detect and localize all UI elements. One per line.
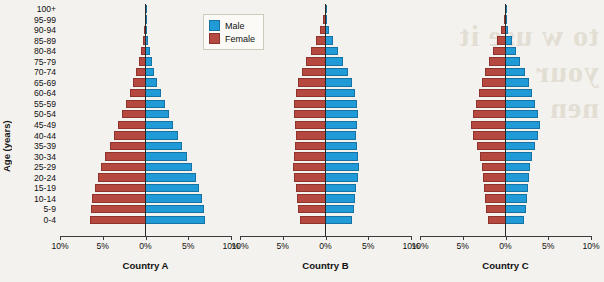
panel-title: Country A <box>60 260 231 271</box>
panel-country-c: 10%5%0%5%10%Country C <box>420 4 591 280</box>
age-group-label: 95-99 <box>16 15 58 26</box>
x-axis-tick-label: 0% <box>129 241 163 251</box>
bar-male <box>326 184 357 192</box>
age-group-label: 25-29 <box>16 162 58 173</box>
bar-male <box>506 57 521 65</box>
x-axis-tick-label: 10% <box>403 241 437 251</box>
age-group-label: 60-64 <box>16 88 58 99</box>
bar-female <box>484 184 505 192</box>
x-axis-tick-label: 0% <box>309 241 343 251</box>
y-axis-label: Age (years) <box>1 86 15 206</box>
age-group-label: 35-39 <box>16 141 58 152</box>
bar-female <box>480 152 506 160</box>
bar-female <box>298 78 325 86</box>
plot-area <box>420 4 591 236</box>
x-axis-tick <box>591 236 592 240</box>
bar-female <box>101 163 145 171</box>
x-axis-tick-label: 10% <box>574 241 604 251</box>
bar-female <box>479 89 506 97</box>
bar-female <box>296 184 326 192</box>
bar-male <box>146 89 161 97</box>
bar-female <box>118 121 145 129</box>
x-axis-tick <box>60 236 61 240</box>
bar-female <box>493 47 505 55</box>
bar-male <box>326 89 355 97</box>
bar-male <box>506 194 527 202</box>
bar-female <box>298 205 325 213</box>
bar-female <box>311 47 326 55</box>
bar-female <box>92 194 145 202</box>
panels-container: 10%5%0%5%10%Country A10%5%0%5%10%Country… <box>60 4 591 280</box>
bar-male <box>506 89 533 97</box>
bar-male <box>506 173 530 181</box>
bar-male <box>146 216 206 224</box>
bar-male <box>146 68 155 76</box>
bar-male <box>506 47 517 55</box>
bar-female <box>296 89 326 97</box>
bar-male <box>506 100 536 108</box>
panel-title: Country B <box>240 260 411 271</box>
bar-male <box>146 57 152 65</box>
bar-female <box>482 163 506 171</box>
bar-female <box>294 173 326 181</box>
bar-male <box>146 194 202 202</box>
x-axis-tick-label: 0% <box>489 241 523 251</box>
x-axis-tick <box>548 236 549 240</box>
x-axis-tick-label: 5% <box>266 241 300 251</box>
age-group-label: 80-84 <box>16 46 58 57</box>
bar-male <box>146 142 183 150</box>
x-axis-tick <box>231 236 232 240</box>
bar-female <box>306 57 326 65</box>
x-axis-tick <box>463 236 464 240</box>
bar-male <box>326 47 338 55</box>
bar-female <box>489 57 506 65</box>
bar-male <box>506 110 539 118</box>
x-axis-tick-label: 5% <box>531 241 565 251</box>
age-group-label: 75-79 <box>16 57 58 68</box>
bar-male <box>506 184 528 192</box>
bar-male <box>326 68 349 76</box>
age-group-label: 20-24 <box>16 173 58 184</box>
bar-female <box>302 68 326 76</box>
age-group-label: 45-49 <box>16 120 58 131</box>
x-axis-tick <box>368 236 369 240</box>
age-group-label: 65-69 <box>16 78 58 89</box>
bar-male <box>326 142 357 150</box>
bar-female <box>295 121 326 129</box>
bar-male <box>326 152 358 160</box>
bar-male <box>146 100 165 108</box>
plot-area <box>240 4 411 236</box>
age-group-label: 15-19 <box>16 183 58 194</box>
bar-female <box>294 110 326 118</box>
legend-label-female: Female <box>225 34 255 44</box>
bar-female <box>294 152 326 160</box>
bar-male <box>146 205 204 213</box>
age-group-axis: 100+95-9990-9485-8980-8475-7970-7465-696… <box>16 4 58 236</box>
female-color-swatch <box>209 33 220 44</box>
legend-item-male: Male <box>209 19 255 32</box>
bar-male <box>506 78 529 86</box>
x-axis-tick-label: 10% <box>223 241 257 251</box>
bar-female <box>477 142 506 150</box>
bar-male <box>326 216 353 224</box>
bar-female <box>485 68 506 76</box>
male-color-swatch <box>209 20 220 31</box>
age-group-label: 50-54 <box>16 109 58 120</box>
x-axis-tick <box>240 236 241 240</box>
age-group-label: 85-89 <box>16 36 58 47</box>
bar-female <box>297 194 326 202</box>
bar-male <box>146 152 187 160</box>
bar-male <box>146 184 199 192</box>
bar-female <box>471 121 505 129</box>
bar-female <box>110 142 146 150</box>
bar-male <box>146 110 169 118</box>
legend-item-female: Female <box>209 32 255 45</box>
bar-male <box>326 163 359 171</box>
x-axis-tick <box>326 236 327 240</box>
bar-female <box>133 78 145 86</box>
bar-female <box>95 184 145 192</box>
x-axis-tick-label: 5% <box>171 241 205 251</box>
panel-title: Country C <box>420 260 591 271</box>
bar-male <box>506 68 525 76</box>
bar-male <box>506 131 539 139</box>
